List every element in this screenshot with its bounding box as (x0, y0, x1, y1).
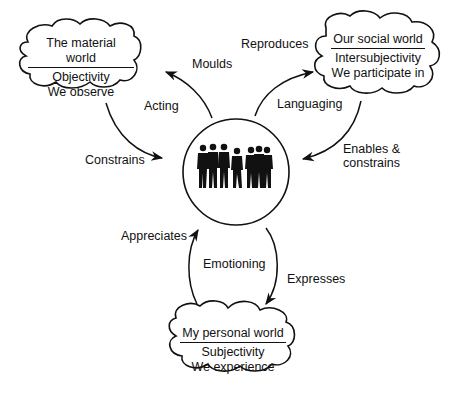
material-world-title: The material world (28, 36, 134, 68)
label-emotioning: Emotioning (203, 257, 266, 271)
label-appreciates: Appreciates (121, 229, 187, 243)
social-world-line1: Intersubjectivity (322, 51, 434, 66)
social-world-text: Our social world Intersubjectivity We pa… (322, 32, 434, 81)
material-world-line1: Objectivity (28, 70, 134, 85)
label-moulds: Moulds (192, 57, 232, 71)
label-expresses: Expresses (287, 272, 345, 286)
label-reproduces: Reproduces (241, 37, 308, 51)
material-world-line2: We observe (28, 85, 134, 100)
personal-world-text: My personal world Subjectivity We experi… (176, 326, 290, 375)
personal-world-line2: We experience (176, 360, 290, 375)
label-acting: Acting (144, 99, 179, 113)
personal-world-line1: Subjectivity (176, 345, 290, 360)
social-world-line2: We participate in (322, 66, 434, 81)
personal-world-title: My personal world (180, 326, 285, 343)
label-enables-constrains: constrains (343, 156, 400, 170)
label-languaging: Languaging (277, 97, 342, 111)
social-world-title: Our social world (331, 32, 425, 49)
arrow-expresses (266, 228, 277, 304)
label-constrains: Constrains (85, 153, 145, 167)
material-world-text: The material world Objectivity We observ… (28, 36, 134, 100)
label-enables: Enables & (343, 142, 400, 156)
arrow-appreciates (189, 230, 198, 304)
